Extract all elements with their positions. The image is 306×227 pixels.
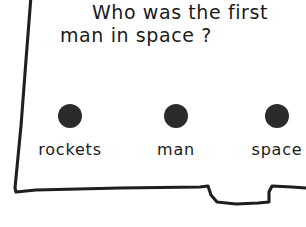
answer-option-space[interactable]: space [217,100,306,159]
quiz-card-screen: Who was the first man in space ? rockets… [0,0,306,227]
answer-option-label: space [217,141,306,159]
question-line-1: Who was the first [46,1,296,24]
answer-option-rockets[interactable]: rockets [10,100,130,159]
filled-circle-icon[interactable] [58,104,82,128]
filled-circle-icon[interactable] [265,104,289,128]
question-line-2: man in space ? [46,24,296,47]
filled-circle-icon[interactable] [164,104,188,128]
question-text: Who was the first man in space ? [46,1,296,47]
answer-options-row: rockets man space [0,100,306,162]
answer-option-label: rockets [10,141,130,159]
